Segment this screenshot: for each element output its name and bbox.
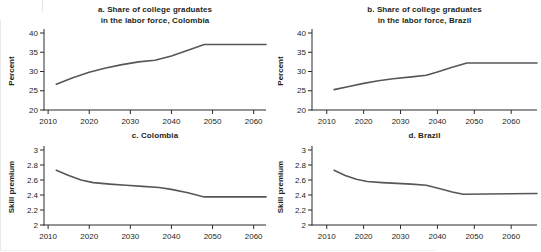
x-tick-label: 2020 xyxy=(355,117,373,126)
x-tick-label: 2060 xyxy=(502,232,520,241)
x-tick-label: 2060 xyxy=(502,117,520,126)
y-tick-label: 25 xyxy=(29,86,38,95)
y-tick-label: 2.4 xyxy=(27,191,39,200)
y-tick-label: 40 xyxy=(297,29,306,38)
y-tick-label: 3 xyxy=(34,146,39,155)
chart-b: b. Share of college graduates in the lab… xyxy=(270,0,541,126)
y-tick-label: 2 xyxy=(34,221,39,230)
x-tick-label: 2010 xyxy=(318,117,336,126)
x-tick-label: 2030 xyxy=(121,232,139,241)
y-tick-label: 20 xyxy=(29,106,38,115)
chart-b-plot: 2025303540201020202030204020502060 xyxy=(270,0,541,126)
four-panel-line-chart-figure: a. Share of college graduates in the lab… xyxy=(0,0,541,252)
x-tick-label: 2020 xyxy=(355,232,373,241)
x-tick-label: 2040 xyxy=(163,232,181,241)
chart-c-plot: 22.22.42.62.83201020202030204020502060 xyxy=(0,126,270,252)
y-tick-label: 20 xyxy=(297,106,306,115)
y-tick-label: 2 xyxy=(302,221,307,230)
x-tick-label: 2030 xyxy=(392,117,410,126)
chart-d: d. Brazil Skill premium 22.22.42.62.8320… xyxy=(270,126,541,252)
y-tick-label: 2.8 xyxy=(27,161,39,170)
y-tick-label: 2.2 xyxy=(27,206,39,215)
chart-a-plot: 2025303540201020202030204020502060 xyxy=(0,0,270,126)
y-tick-label: 2.4 xyxy=(295,191,307,200)
x-tick-label: 2050 xyxy=(465,232,483,241)
x-tick-label: 2050 xyxy=(204,117,222,126)
chart-d-plot: 22.22.42.62.83201020202030204020502060 xyxy=(270,126,541,252)
x-tick-label: 2060 xyxy=(245,117,263,126)
x-tick-label: 2020 xyxy=(80,232,98,241)
y-tick-label: 30 xyxy=(297,67,306,76)
x-tick-label: 2030 xyxy=(121,117,139,126)
y-tick-label: 35 xyxy=(297,48,306,57)
x-tick-label: 2010 xyxy=(39,232,57,241)
x-tick-label: 2040 xyxy=(163,117,181,126)
series-line xyxy=(334,170,537,194)
x-tick-label: 2030 xyxy=(392,232,410,241)
y-tick-label: 2.6 xyxy=(27,176,39,185)
y-tick-label: 40 xyxy=(29,29,38,38)
y-tick-label: 3 xyxy=(302,146,307,155)
chart-c: c. Colombia Skill premium 22.22.42.62.83… xyxy=(0,126,270,252)
series-line xyxy=(56,45,266,85)
series-line xyxy=(334,63,537,90)
x-tick-label: 2060 xyxy=(245,232,263,241)
y-tick-label: 35 xyxy=(29,48,38,57)
series-line xyxy=(56,170,266,197)
x-tick-label: 2010 xyxy=(318,232,336,241)
y-tick-label: 2.6 xyxy=(295,176,307,185)
chart-a: a. Share of college graduates in the lab… xyxy=(0,0,270,126)
x-tick-label: 2010 xyxy=(39,117,57,126)
y-tick-label: 30 xyxy=(29,67,38,76)
x-tick-label: 2040 xyxy=(429,117,447,126)
y-tick-label: 25 xyxy=(297,86,306,95)
y-tick-label: 2.8 xyxy=(295,161,307,170)
x-tick-label: 2040 xyxy=(429,232,447,241)
x-tick-label: 2020 xyxy=(80,117,98,126)
x-tick-label: 2050 xyxy=(204,232,222,241)
y-tick-label: 2.2 xyxy=(295,206,307,215)
x-tick-label: 2050 xyxy=(465,117,483,126)
